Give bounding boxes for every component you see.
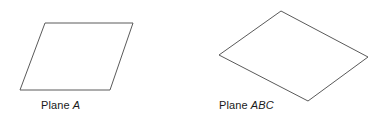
rhombus-plane-icon [219, 11, 368, 101]
plane-a-caption: Plane A [41, 99, 80, 111]
plane-abc-caption-name: ABC [251, 99, 274, 111]
plane-abc-caption: Plane ABC [219, 99, 274, 111]
plane-a-caption-name: A [73, 99, 80, 111]
plane-a-caption-prefix: Plane [41, 99, 70, 111]
plane-abc-caption-prefix: Plane [219, 99, 248, 111]
parallelogram-plane-icon [20, 23, 133, 90]
